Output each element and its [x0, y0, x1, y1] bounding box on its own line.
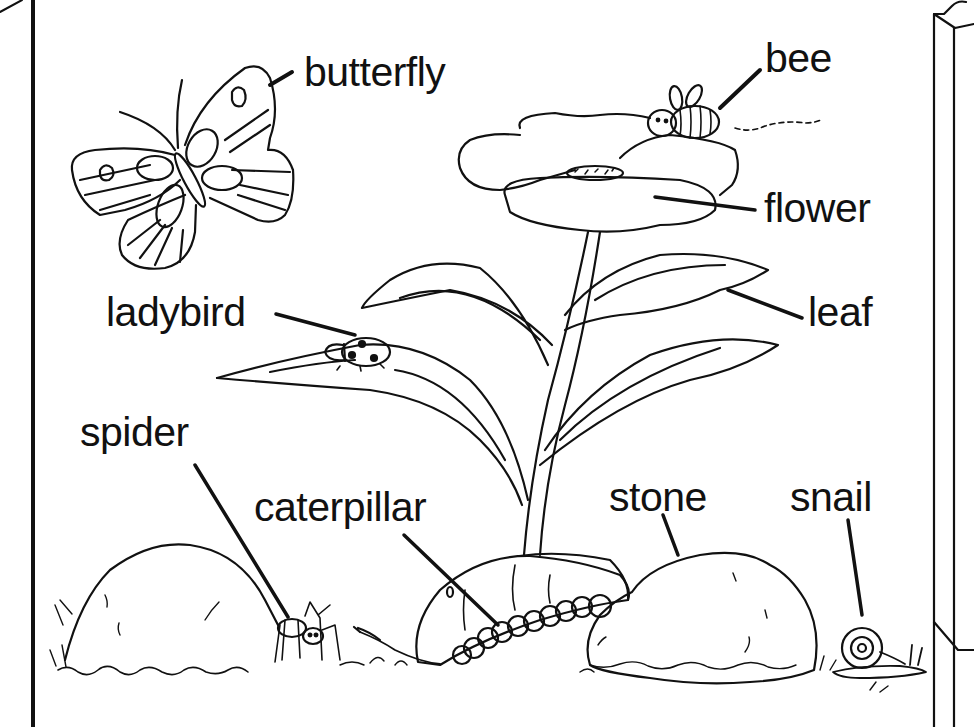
page-frame: [0, 0, 33, 727]
label-bee: bee: [765, 38, 832, 79]
garden-wall: [934, 2, 974, 727]
label-spider: spider: [80, 412, 189, 453]
label-caterpillar: caterpillar: [254, 487, 426, 528]
butterfly-drawing: [72, 66, 293, 268]
garden-illustration: [0, 0, 974, 727]
label-butterfly: butterfly: [304, 52, 445, 93]
label-flower: flower: [764, 188, 870, 229]
leaves-drawing: [217, 254, 802, 505]
stone-drawing: [588, 515, 817, 683]
left-stone-drawing: [50, 544, 278, 674]
label-snail: snail: [790, 477, 872, 518]
label-ladybird: ladybird: [106, 292, 246, 333]
snail-drawing: [833, 520, 926, 678]
label-stone: stone: [609, 477, 707, 518]
label-leaf: leaf: [808, 292, 872, 333]
flower-drawing: [459, 113, 755, 555]
